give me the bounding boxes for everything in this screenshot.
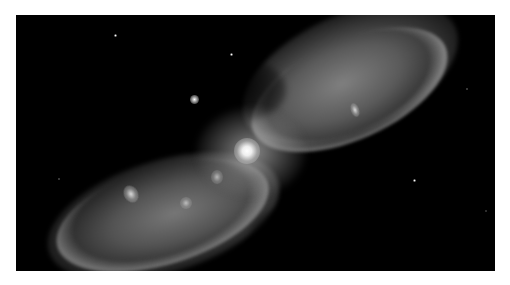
field-star [466, 88, 468, 90]
waist-shadow-bottom [251, 200, 401, 270]
field-star [485, 210, 487, 212]
upper-right-lobe-rim [233, 15, 466, 178]
waist-shadow-top [166, 55, 286, 125]
field-star [230, 53, 233, 56]
field-star [114, 34, 117, 37]
field-star [413, 179, 416, 182]
left-lobe-knot [120, 183, 141, 206]
field-star [58, 178, 60, 180]
left-lobe-knot [180, 197, 192, 209]
lower-left-lobe [32, 128, 294, 271]
nebula-image [16, 15, 495, 271]
bright-field-star [190, 95, 199, 104]
left-lobe-knot [211, 170, 223, 184]
waist-glow [196, 107, 306, 197]
right-lobe-knot [349, 102, 361, 118]
lower-left-lobe-rim [43, 136, 282, 271]
central-star [234, 138, 260, 164]
upper-right-lobe [221, 15, 479, 174]
